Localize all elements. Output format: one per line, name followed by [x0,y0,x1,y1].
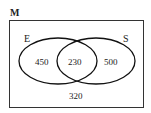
set-s-label: S [123,33,129,44]
set-e-ellipse [19,38,97,84]
universe-label: M [10,7,20,18]
intersection-value: 230 [68,57,82,67]
outside-value: 320 [69,91,83,101]
venn-diagram: M E S 450 230 500 320 [0,0,151,113]
s-only-value: 500 [104,57,118,67]
set-e-label: E [24,33,30,44]
e-only-value: 450 [35,57,49,67]
